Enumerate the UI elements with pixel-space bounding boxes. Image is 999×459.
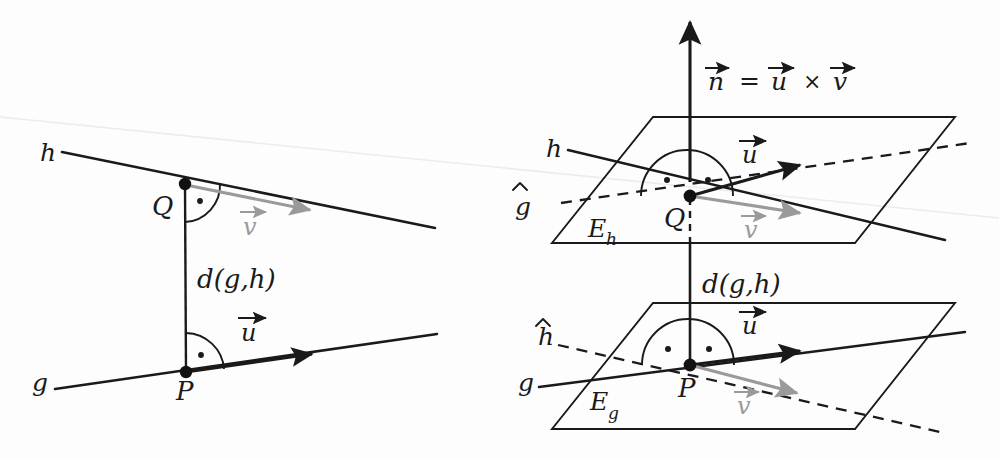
left-vector-u-letter: u (241, 319, 256, 347)
upper-vector-v (690, 196, 800, 213)
lower-plane-label: E g (589, 387, 619, 423)
left-point-q-dot (179, 178, 191, 190)
right-label-distance: d(g,h) (702, 269, 781, 299)
lower-plane-label-letter: E (589, 387, 608, 416)
upper-label-g-hat: g (513, 183, 531, 221)
upper-point-q-dot (684, 190, 697, 203)
upper-label-line-h: h (546, 134, 562, 163)
scan-artifact-line (0, 117, 999, 218)
right-panel: n = u × v (513, 22, 970, 432)
lower-point-p-dot (684, 359, 697, 372)
lower-right-angle-dot-left (665, 346, 671, 352)
left-right-angle-dot-p (198, 352, 204, 358)
left-distance-segment (185, 185, 186, 372)
left-label-distance: d(g,h) (197, 264, 276, 294)
normal-formula: n = u × v (705, 66, 855, 96)
left-label-point-p: P (175, 376, 194, 406)
upper-vector-v-label: v (741, 216, 766, 244)
lower-vector-v-label: v (734, 392, 759, 420)
normal-formula-u: u (771, 67, 787, 96)
upper-plane-label-letter: E (587, 214, 606, 243)
upper-label-g-hat-circumflex (513, 183, 527, 190)
figure-root: h g Q P d(g,h) v u n (0, 0, 999, 459)
lower-line-g (539, 332, 965, 387)
upper-label-g-hat-letter: g (515, 192, 531, 221)
upper-vector-v-letter: v (744, 216, 758, 244)
lower-plane-label-subscript: g (608, 403, 619, 423)
upper-label-point-q: Q (664, 203, 685, 233)
lower-vector-v-letter: v (737, 392, 751, 420)
left-right-angle-dot-q (197, 198, 203, 204)
left-panel: h g Q P d(g,h) v u (32, 138, 437, 406)
normal-formula-equals: = (739, 66, 760, 95)
left-vector-v-letter: v (243, 213, 257, 241)
lower-vector-u (690, 351, 800, 365)
lower-right-angle-dot-right (706, 346, 712, 352)
lower-vector-v (690, 365, 797, 393)
lower-vector-u-label: u (739, 312, 766, 340)
left-vector-v-label: v (240, 212, 266, 241)
upper-right-angle-dot-right (705, 177, 711, 183)
upper-vector-u-label: u (739, 141, 766, 169)
left-label-line-g: g (32, 368, 48, 397)
lower-label-point-p: P (677, 373, 696, 403)
normal-formula-v: v (833, 67, 847, 96)
left-vector-u-label: u (238, 318, 266, 347)
left-right-angle-marker-p (186, 333, 224, 369)
left-label-line-h: h (40, 138, 56, 167)
lower-label-h-hat-letter: h (538, 322, 554, 351)
left-vector-u (186, 354, 312, 372)
normal-formula-n: n (708, 67, 724, 96)
left-label-point-q: Q (152, 191, 173, 221)
lower-right-angle-marker (642, 319, 734, 365)
lower-label-line-g: g (518, 368, 534, 397)
geometry-diagram: h g Q P d(g,h) v u n (0, 0, 999, 459)
lower-vector-u-letter: u (742, 312, 757, 340)
upper-right-angle-dot-left (664, 177, 670, 183)
upper-vector-u-letter: u (742, 141, 757, 169)
lower-label-h-hat: h (536, 319, 554, 351)
upper-plane-label-subscript: h (606, 229, 617, 249)
normal-formula-times: × (803, 69, 821, 94)
